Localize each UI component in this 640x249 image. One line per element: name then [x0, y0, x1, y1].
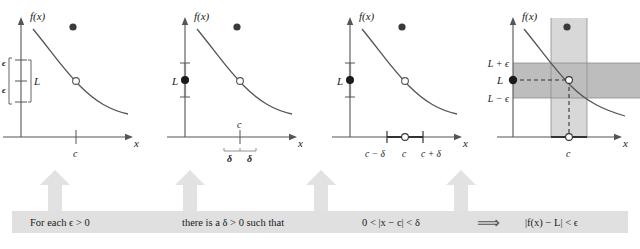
caption-segment-2: there is a δ > 0 such that [182, 217, 284, 228]
panel-4-L-dot [509, 76, 517, 84]
panel-4-horizontal-band [513, 63, 640, 98]
panel-4-label-L-minus-epsilon: L − ϵ [487, 93, 510, 104]
panel-4-x-axis-label: x [622, 137, 628, 149]
panel-4-label-L: L [496, 74, 503, 86]
panel-3-open-circle-on-axis [402, 134, 409, 141]
panel-4-floating-dot [563, 23, 570, 30]
panel-3-x-axis-label: x [462, 137, 468, 149]
panel-3-label-c-plus-delta: c + δ [421, 149, 441, 159]
panel-2-y-axis-label: f(x) [194, 10, 210, 23]
panel-2-L-label: L [171, 75, 178, 87]
panel-2-L-dot [181, 76, 189, 84]
panel-2-delta-label-left: δ [227, 153, 232, 164]
panel-1-y-axis-label: f(x) [30, 10, 46, 23]
caption-segment-5: |f(x) − L| < ϵ [525, 217, 579, 229]
panel-1-floating-dot [69, 23, 76, 30]
panel-2-c-label: c [237, 119, 242, 130]
panel-4-label-L-plus-epsilon: L + ϵ [487, 58, 510, 69]
panel-4-open-circle-on-curve [566, 77, 573, 84]
panel-2-x-axis-label: x [297, 137, 303, 149]
panel-3-L-dot [346, 76, 354, 84]
panel-1-x-axis-label: x [133, 137, 139, 149]
panel-1-open-circle-on-curve [73, 78, 80, 85]
panel-3-label-c-minus-delta: c − δ [365, 149, 385, 159]
panel-3-y-axis-label: f(x) [359, 10, 375, 23]
panel-4-c-label: c [566, 148, 571, 159]
panel-2-delta-label-right: δ [247, 153, 252, 164]
panel-1-epsilon-label-lower: ϵ [2, 85, 6, 95]
panel-3-open-circle-on-curve [402, 78, 409, 85]
caption-implies-arrow: ⟹ [477, 214, 500, 231]
panel-4-open-circle-on-axis [566, 134, 573, 141]
panel-3-L-label: L [336, 75, 343, 87]
panel-3-floating-dot [398, 23, 405, 30]
panel-1-c-label: c [73, 148, 78, 159]
panel-2-floating-dot [233, 23, 240, 30]
panel-2-open-circle-on-curve [237, 78, 244, 85]
epsilon-delta-limit-figure: f(x) x ϵ ϵ L c f(x) x [0, 0, 640, 249]
panel-1-L-label: L [33, 75, 40, 87]
panel-1-epsilon-label-upper: ϵ [2, 58, 6, 68]
caption-segment-3: 0 < |x − c| < δ [362, 217, 420, 228]
panel-4-y-axis-label: f(x) [522, 10, 538, 23]
caption-bar: For each ϵ > 0 there is a δ > 0 such tha… [12, 211, 628, 233]
caption-segment-1: For each ϵ > 0 [30, 217, 90, 228]
